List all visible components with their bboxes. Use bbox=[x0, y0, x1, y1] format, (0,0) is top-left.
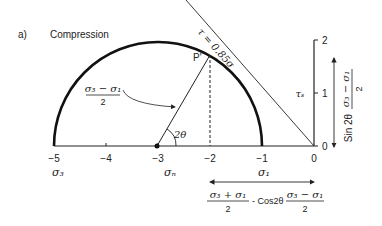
svg-text:σ₃ − σ₁: σ₃ − σ₁ bbox=[287, 189, 323, 200]
y-tick: 0 bbox=[322, 141, 328, 152]
x-tick: −4 bbox=[100, 153, 112, 164]
radius-label-num: σ₃ − σ₁ bbox=[85, 83, 121, 94]
svg-text:2: 2 bbox=[302, 204, 307, 214]
angle-label: 2θ bbox=[173, 129, 186, 140]
sigman-label: σₙ bbox=[164, 166, 176, 179]
svg-text:- Cos2θ: - Cos2θ bbox=[252, 196, 284, 206]
failure-envelope-line bbox=[186, 0, 314, 146]
x-tick: −1 bbox=[256, 153, 268, 164]
x-tick: −3 bbox=[152, 153, 164, 164]
svg-text:2: 2 bbox=[354, 86, 364, 91]
svg-text:2: 2 bbox=[225, 204, 230, 214]
sigma1-label: σ₁ bbox=[258, 166, 270, 179]
radius-label-den: 2 bbox=[100, 97, 105, 107]
radius-pointer-arrow bbox=[123, 90, 175, 107]
y-tick: 2 bbox=[322, 35, 328, 46]
bottom-formula: σ₃ + σ₁ 2 - Cos2θ σ₃ − σ₁ 2 bbox=[207, 189, 324, 214]
x-tick: −5 bbox=[48, 153, 60, 164]
tau-s-label: τₛ bbox=[296, 88, 305, 99]
shear-side-label: σ₃ − σ₁ 2 bbox=[340, 69, 364, 109]
center-point bbox=[155, 144, 160, 149]
sigma3-label: σ₃ bbox=[52, 166, 64, 179]
svg-text:σ₃ − σ₁: σ₃ − σ₁ bbox=[340, 71, 351, 107]
svg-text:σ₃ + σ₁: σ₃ + σ₁ bbox=[210, 189, 246, 200]
mohr-circle-diagram: a) Compression −5 −4 −3 −2 −1 0 σ₃ σₙ σ₁… bbox=[0, 0, 382, 226]
panel-label: a) bbox=[18, 29, 27, 40]
x-tick: 0 bbox=[311, 153, 317, 164]
x-tick: −2 bbox=[204, 153, 216, 164]
failure-line-label: τ = 0.85σ bbox=[196, 26, 238, 71]
point-p-label: P' bbox=[193, 52, 202, 63]
sin-2theta-label: Sin 2θ bbox=[343, 113, 354, 142]
chart-title: Compression bbox=[50, 29, 109, 40]
y-tick: 1 bbox=[322, 88, 328, 99]
